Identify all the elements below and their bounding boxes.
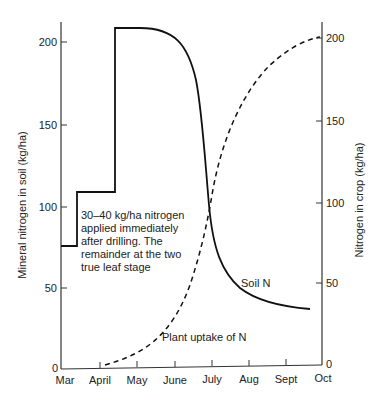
x-tick-oct: Oct <box>314 372 331 384</box>
svg-text:remainder at the two: remainder at the two <box>81 248 181 260</box>
y-right-tick-200: 200 <box>326 32 344 44</box>
y-left-tick-100: 100 <box>39 201 57 213</box>
nitrogen-chart: 200 150 100 50 0 200 150 100 50 0 Mar Ap… <box>0 0 380 406</box>
plant-uptake-line <box>105 37 320 365</box>
plant-uptake-label: Plant uptake of N <box>162 331 246 343</box>
y-left-tick-150: 150 <box>39 119 57 131</box>
x-tick-mar: Mar <box>56 374 75 386</box>
y-right-tick-0: 0 <box>326 358 332 370</box>
svg-text:after drilling. The: after drilling. The <box>81 235 163 247</box>
y-right-title: Nitrogen in crop (kg/ha) <box>353 143 365 258</box>
y-left-title: Mineral nitrogen in soil (kg/ha) <box>16 131 28 278</box>
application-note: 30–40 kg/ha nitrogen applied immediately… <box>81 209 184 273</box>
y-left-tick-0: 0 <box>52 362 58 374</box>
y-left-tick-200: 200 <box>39 36 57 48</box>
y-right-ticks: 200 150 100 50 0 <box>316 32 344 370</box>
y-right-tick-50: 50 <box>326 277 338 289</box>
y-right-tick-150: 150 <box>326 115 344 127</box>
y-left-ticks: 200 150 100 50 0 <box>39 36 67 374</box>
svg-text:true leaf stage: true leaf stage <box>81 261 151 273</box>
y-left-tick-50: 50 <box>45 282 57 294</box>
x-tick-aug: Aug <box>239 373 259 385</box>
x-tick-april: April <box>89 374 111 386</box>
x-tick-june: June <box>163 374 187 386</box>
x-tick-sept: Sept <box>275 373 298 385</box>
x-ticks: Mar April May June July Aug Sept Oct <box>56 359 332 386</box>
svg-text:applied immediately: applied immediately <box>81 222 179 234</box>
y-right-tick-100: 100 <box>326 197 344 209</box>
x-tick-july: July <box>202 373 222 385</box>
svg-text:30–40 kg/ha nitrogen: 30–40 kg/ha nitrogen <box>81 209 184 221</box>
x-tick-may: May <box>127 374 148 386</box>
soil-n-label: Soil N <box>241 277 270 289</box>
